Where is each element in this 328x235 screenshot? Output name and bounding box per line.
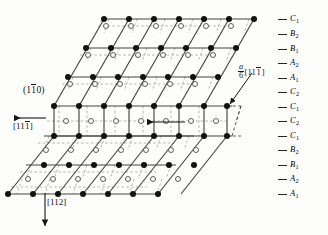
stacking-label-subscript: 2 <box>296 148 299 155</box>
stacking-label-row: B1 <box>278 43 299 55</box>
stacking-label-row: C2 <box>278 115 299 127</box>
stacking-tick-dash <box>278 78 287 79</box>
stacking-label-text: A2 <box>290 58 299 68</box>
stacking-label-text: B2 <box>290 145 299 155</box>
stacking-tick-dash <box>278 136 287 137</box>
stacking-label-subscript: 1 <box>296 192 299 199</box>
stacking-label-row: A1 <box>278 188 299 200</box>
burgers-fraction: a 6 <box>238 63 244 80</box>
stacking-tick-dash <box>278 165 287 166</box>
stacking-label-text: B2 <box>290 29 299 39</box>
stacking-label-row: C1 <box>278 13 299 25</box>
stacking-label-subscript: 1 <box>296 134 299 141</box>
stacking-tick-dash <box>278 194 287 195</box>
stacking-label-text: C2 <box>290 116 299 126</box>
stacking-label-text: C1 <box>290 131 299 141</box>
stacking-label-subscript: 2 <box>296 119 299 126</box>
burgers-vector-label: a 6 [111] <box>238 63 265 80</box>
stacking-label-row: C2 <box>278 86 299 98</box>
stacking-label-text: A2 <box>290 174 299 184</box>
stacking-label-text: B1 <box>290 160 299 170</box>
direction-label-112: [112] <box>47 197 66 207</box>
stacking-tick-dash <box>278 34 287 35</box>
stacking-tick-dash <box>278 63 287 64</box>
stacking-label-subscript: 1 <box>296 17 299 24</box>
stacking-tick-dash <box>278 92 287 93</box>
stacking-label-row: C1 <box>278 130 299 142</box>
direction-label-111bar: [111] <box>13 121 33 131</box>
stacking-tick-dash <box>278 150 287 151</box>
stacking-label-subscript: 1 <box>296 105 299 112</box>
stacking-label-row: A2 <box>278 173 299 185</box>
stacking-label-text: C1 <box>290 102 299 112</box>
stacking-label-text: C2 <box>290 87 299 97</box>
stacking-label-subscript: 2 <box>296 90 299 97</box>
stacking-label-row: A2 <box>278 57 299 69</box>
plane-index-label: (110) <box>23 84 44 95</box>
stacking-label-text: A1 <box>290 73 299 83</box>
stacking-label-subscript: 1 <box>296 47 299 54</box>
stacking-label-row: B2 <box>278 28 299 40</box>
stacking-label-row: A1 <box>278 72 299 84</box>
stacking-label-subscript: 1 <box>296 76 299 83</box>
stacking-label-row: B2 <box>278 144 299 156</box>
displacement-ghost-cell <box>227 106 241 136</box>
stacking-label-text: C1 <box>290 14 299 24</box>
lattice-figure: (110) [111] [112] a 6 [111] C1B2B1A2A1C2… <box>0 0 328 235</box>
stacking-label-subscript: 2 <box>296 32 299 39</box>
stacking-tick-dash <box>278 19 287 20</box>
stacking-label-row: C1 <box>278 101 299 113</box>
open-atoms <box>26 24 234 182</box>
stacking-label-subscript: 2 <box>296 177 299 184</box>
stacking-label-subscript: 2 <box>296 61 299 68</box>
stacking-tick-dash <box>278 179 287 180</box>
stacking-tick-dash <box>278 107 287 108</box>
stacking-label-row: B1 <box>278 159 299 171</box>
stacking-label-text: B1 <box>290 44 299 54</box>
stacking-tick-dash <box>278 121 287 122</box>
stacking-label-text: A1 <box>290 189 299 199</box>
stacking-tick-dash <box>278 49 287 50</box>
stacking-label-subscript: 1 <box>296 163 299 170</box>
